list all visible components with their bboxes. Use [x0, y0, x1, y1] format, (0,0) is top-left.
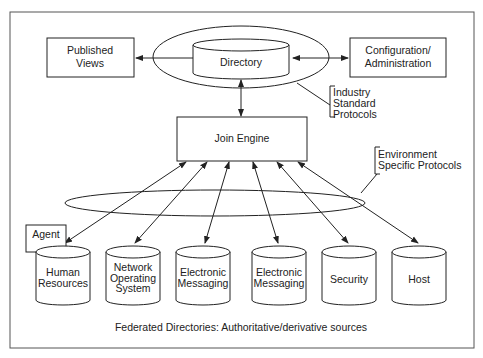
svg-text:Security: Security: [330, 273, 369, 285]
published-views-node: Published Views: [47, 38, 134, 77]
svg-text:Host: Host: [408, 273, 430, 285]
diagram-caption: Federated Directories: Authoritative/der…: [115, 321, 367, 333]
source-host: Host: [392, 246, 446, 305]
svg-text:Protocols: Protocols: [333, 108, 377, 120]
source-electronic-messaging-1: Electronic Messaging: [176, 246, 230, 305]
configuration-label-2: Administration: [365, 57, 432, 69]
join-engine-label: Join Engine: [215, 132, 270, 144]
source-network-os: Network Operating System: [106, 246, 160, 305]
source-electronic-messaging-2: Electronic Messaging: [252, 246, 306, 305]
source-security: Security: [322, 246, 376, 305]
svg-text:Messaging: Messaging: [254, 277, 305, 289]
federated-directory-diagram: Directory Published Views Configuration/…: [0, 0, 483, 358]
published-views-label-1: Published: [67, 44, 113, 56]
directory-label: Directory: [220, 56, 263, 68]
svg-text:Specific Protocols: Specific Protocols: [378, 159, 461, 171]
industry-protocols-annotation: Industry Standard Protocols: [297, 83, 377, 120]
configuration-node: Configuration/ Administration: [350, 38, 446, 77]
svg-text:Messaging: Messaging: [178, 277, 229, 289]
source-human-resources: Human Resources: [36, 246, 90, 305]
join-engine-node: Join Engine: [177, 117, 307, 161]
published-views-label-2: Views: [76, 57, 104, 69]
protocol-ring-ellipse: [65, 190, 365, 216]
svg-text:Resources: Resources: [38, 277, 88, 289]
directory-node: Directory: [193, 39, 289, 79]
environment-protocols-annotation: Environment Specific Protocols: [361, 147, 461, 193]
svg-text:Agent: Agent: [32, 228, 60, 240]
configuration-label-1: Configuration/: [365, 44, 430, 56]
svg-text:System: System: [115, 282, 150, 294]
